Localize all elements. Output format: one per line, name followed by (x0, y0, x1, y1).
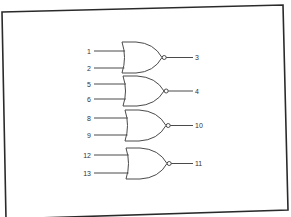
input-pin-label: 8 (87, 115, 91, 122)
nor-gate-body (122, 42, 162, 73)
input-pin-label: 5 (87, 81, 91, 88)
nor-gate: 564 (87, 76, 199, 106)
nor-gate-schematic: 1235648910121311 (0, 0, 291, 217)
output-pin-label: 11 (195, 160, 202, 167)
output-pin-label: 10 (195, 122, 203, 129)
inversion-bubble (164, 89, 168, 93)
nor-gate-body (125, 110, 166, 141)
output-pin-label: 3 (195, 54, 199, 61)
input-pin-label: 12 (83, 152, 91, 159)
input-pin-label: 13 (83, 170, 91, 177)
input-pin-label: 1 (87, 48, 91, 55)
nor-gate-body (126, 148, 167, 179)
nor-gate: 8910 (87, 110, 203, 141)
nor-gate-body (123, 76, 164, 106)
nor-gate: 123 (87, 42, 199, 73)
nor-gate: 121311 (83, 148, 202, 179)
diagram-canvas: 1235648910121311 (0, 0, 291, 217)
inversion-bubble (162, 56, 166, 60)
input-pin-label: 9 (87, 132, 91, 139)
inversion-bubble (166, 124, 170, 128)
input-pin-label: 2 (87, 65, 91, 72)
inversion-bubble (167, 162, 171, 166)
input-pin-label: 6 (87, 96, 91, 103)
output-pin-label: 4 (195, 88, 199, 95)
